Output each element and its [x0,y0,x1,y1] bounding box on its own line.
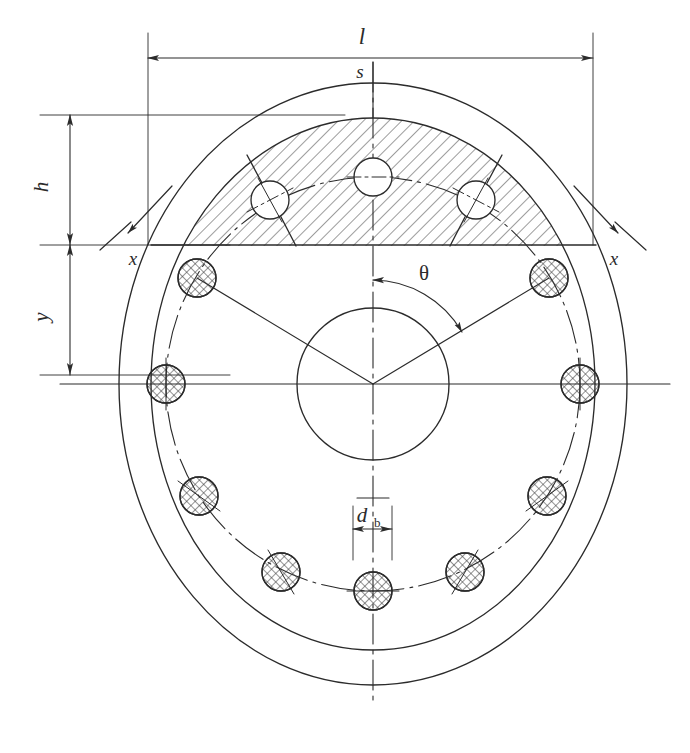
label-theta: θ [419,261,429,285]
label-x-right: x [609,248,619,269]
label-x-left: x [128,248,138,269]
label-s: s [356,61,363,82]
label-db-subscript: b [374,515,381,530]
bolt-br [446,550,484,594]
label-db: d [357,503,368,527]
label-y: y [29,312,53,324]
bolt-ur [530,259,568,297]
bolt-right [561,358,599,410]
bolt-left [147,358,185,410]
bolt-ll [178,477,220,515]
figure-canvas: l s h y x x θ d b [0,0,690,753]
flange-bolt-circle-diagram: l s h y x x θ d b [0,0,690,753]
label-h: h [29,182,53,193]
label-l: l [359,24,365,49]
theta-arc [373,280,462,332]
bolt-bottom [347,572,399,610]
bolt-lr [526,477,568,515]
bolt-bl [262,550,300,594]
bolt-ul [178,259,216,297]
